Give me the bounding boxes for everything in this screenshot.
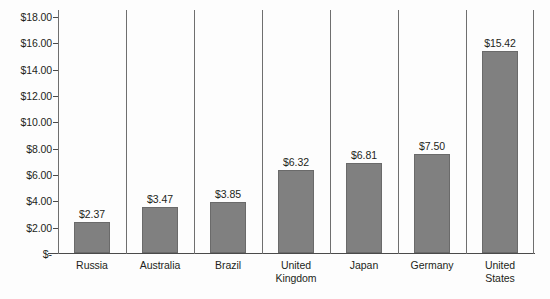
- category-label-line: States: [470, 272, 530, 285]
- category-separator: [58, 10, 59, 254]
- y-tick-label: $12.00: [20, 90, 52, 102]
- bar-brazil: [210, 202, 246, 253]
- category-label-line: Kingdom: [266, 272, 326, 285]
- category-label-united-kingdom: United Kingdom: [266, 259, 326, 285]
- y-tick-label: $4.00: [26, 195, 52, 207]
- y-tick-label: $8.00: [26, 143, 52, 155]
- category-separator: [533, 10, 534, 254]
- bar-australia: [142, 207, 178, 253]
- y-tick-label: $-: [43, 248, 52, 260]
- bar-chart: $18.00 $16.00 $14.00 $12.00 $10.00 $8.00…: [0, 0, 550, 299]
- category-label-japan: Japan: [334, 259, 394, 272]
- category-label-united-states: United States: [470, 259, 530, 285]
- category-separator: [398, 10, 399, 254]
- bar-value-brazil: $3.85: [202, 188, 254, 200]
- category-separator: [466, 10, 467, 254]
- bar-japan: [346, 163, 382, 253]
- x-axis-line: [48, 253, 535, 254]
- category-label-germany: Germany: [402, 259, 462, 272]
- bar-germany: [414, 154, 450, 253]
- category-label-line: United: [470, 259, 530, 272]
- y-tick-label: $14.00: [20, 64, 52, 76]
- category-label-line: Brazil: [198, 259, 258, 272]
- category-label-line: Russia: [62, 259, 122, 272]
- category-separator: [126, 10, 127, 254]
- bar-value-united-kingdom: $6.32: [270, 156, 322, 168]
- y-tick-label: $6.00: [26, 169, 52, 181]
- y-tick-label: $18.00: [20, 11, 52, 23]
- category-label-brazil: Brazil: [198, 259, 258, 272]
- bar-russia: [74, 222, 110, 253]
- category-separator: [262, 10, 263, 254]
- bar-united-kingdom: [278, 170, 314, 253]
- category-label-russia: Russia: [62, 259, 122, 272]
- y-axis-tick-labels: $18.00 $16.00 $14.00 $12.00 $10.00 $8.00…: [0, 0, 52, 299]
- y-tick-label: $10.00: [20, 116, 52, 128]
- category-separator: [330, 10, 331, 254]
- bar-value-japan: $6.81: [338, 149, 390, 161]
- category-label-line: United: [266, 259, 326, 272]
- bar-united-states: [482, 51, 518, 253]
- category-separator: [194, 10, 195, 254]
- bar-value-germany: $7.50: [406, 140, 458, 152]
- bar-value-united-states: $15.42: [474, 37, 526, 49]
- y-tick-label: $2.00: [26, 222, 52, 234]
- category-label-line: Japan: [334, 259, 394, 272]
- bar-value-australia: $3.47: [134, 193, 186, 205]
- category-label-australia: Australia: [130, 259, 190, 272]
- bar-value-russia: $2.37: [66, 208, 118, 220]
- y-tick-label: $16.00: [20, 37, 52, 49]
- category-label-line: Australia: [130, 259, 190, 272]
- category-label-line: Germany: [402, 259, 462, 272]
